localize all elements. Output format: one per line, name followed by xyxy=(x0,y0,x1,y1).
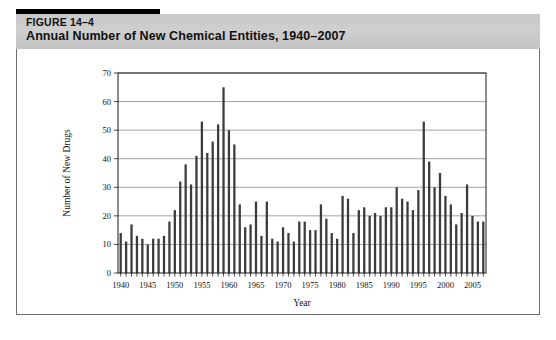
x-tick-2000: 2000 xyxy=(437,280,454,290)
bar-1974 xyxy=(304,222,306,273)
bar-1982 xyxy=(347,199,349,273)
bar-1958 xyxy=(217,124,219,273)
bar-1964 xyxy=(249,224,251,273)
bar-2005 xyxy=(471,216,473,273)
bar-1949 xyxy=(168,222,170,273)
bar-1997 xyxy=(428,162,430,273)
y-axis-title: Number of New Drugs xyxy=(62,129,72,217)
bar-1972 xyxy=(293,242,295,273)
bar-1967 xyxy=(266,202,268,273)
bar-1990 xyxy=(390,207,392,273)
x-tick-1955: 1955 xyxy=(193,280,210,290)
bar-1965 xyxy=(255,202,257,273)
gridlines xyxy=(118,73,486,244)
y-tick-60: 60 xyxy=(103,97,112,107)
figure-title: Annual Number of New Chemical Entities, … xyxy=(26,29,346,43)
y-tick-40: 40 xyxy=(103,154,112,164)
bar-1992 xyxy=(401,199,403,273)
x-tick-1945: 1945 xyxy=(139,280,156,290)
x-tick-2005: 2005 xyxy=(464,280,481,290)
bar-1989 xyxy=(385,207,387,273)
bar-1947 xyxy=(157,239,159,273)
bar-1978 xyxy=(325,219,327,273)
bar-1951 xyxy=(179,182,181,273)
bar-1957 xyxy=(212,142,214,273)
bar-1984 xyxy=(358,210,360,273)
bar-1956 xyxy=(206,153,208,273)
bar-1943 xyxy=(136,236,138,273)
bar-2001 xyxy=(450,204,452,273)
y-tick-50: 50 xyxy=(103,125,112,135)
x-axis-tick-labels: 1940194519501955196019651970197519801985… xyxy=(112,280,481,290)
bar-1994 xyxy=(412,210,414,273)
chart-panel: 010203040506070 194019451950195519601965… xyxy=(16,49,540,315)
x-axis-ticks xyxy=(121,273,484,277)
bar-1995 xyxy=(417,190,419,273)
y-tick-20: 20 xyxy=(103,211,112,221)
bar-1971 xyxy=(287,233,289,273)
bar-chart: 010203040506070 194019451950195519601965… xyxy=(17,49,539,313)
bar-series xyxy=(120,87,485,273)
bar-1963 xyxy=(244,227,246,273)
x-tick-1970: 1970 xyxy=(275,280,292,290)
bar-1945 xyxy=(147,244,149,273)
bar-1975 xyxy=(309,230,311,273)
bar-1952 xyxy=(185,164,187,273)
bar-1968 xyxy=(271,239,273,273)
bar-2007 xyxy=(482,222,484,273)
bar-1976 xyxy=(314,230,316,273)
bar-2003 xyxy=(461,213,463,273)
bar-1970 xyxy=(282,227,284,273)
bar-1985 xyxy=(363,207,365,273)
bar-1973 xyxy=(298,222,300,273)
bar-1969 xyxy=(277,242,279,273)
bar-2000 xyxy=(444,196,446,273)
y-axis-ticks xyxy=(114,73,118,273)
bar-1979 xyxy=(331,233,333,273)
x-tick-1975: 1975 xyxy=(302,280,319,290)
x-tick-1995: 1995 xyxy=(410,280,427,290)
bar-1953 xyxy=(190,184,192,273)
bar-1988 xyxy=(379,216,381,273)
bar-1993 xyxy=(406,202,408,273)
x-tick-1960: 1960 xyxy=(220,280,237,290)
axes xyxy=(118,73,486,273)
bar-2002 xyxy=(455,224,457,273)
bar-1996 xyxy=(423,122,425,273)
bar-1946 xyxy=(152,239,154,273)
bar-1959 xyxy=(222,87,224,273)
bar-1960 xyxy=(228,130,230,273)
x-tick-1980: 1980 xyxy=(329,280,346,290)
x-axis-title: Year xyxy=(293,298,311,308)
y-tick-70: 70 xyxy=(103,68,112,78)
x-tick-1985: 1985 xyxy=(356,280,373,290)
figure-container: FIGURE 14–4 Annual Number of New Chemica… xyxy=(0,0,556,340)
x-tick-1965: 1965 xyxy=(248,280,265,290)
x-tick-1940: 1940 xyxy=(112,280,129,290)
bar-1950 xyxy=(174,210,176,273)
bar-1980 xyxy=(336,239,338,273)
bar-1955 xyxy=(201,122,203,273)
bar-2006 xyxy=(477,222,479,273)
bar-1987 xyxy=(374,213,376,273)
bar-1977 xyxy=(320,204,322,273)
bar-1954 xyxy=(195,156,197,273)
bar-1998 xyxy=(433,187,435,273)
bar-1942 xyxy=(130,224,132,273)
bar-2004 xyxy=(466,184,468,273)
bar-1983 xyxy=(352,233,354,273)
y-tick-10: 10 xyxy=(103,239,112,249)
bar-1962 xyxy=(239,204,241,273)
x-tick-1990: 1990 xyxy=(383,280,400,290)
bar-1999 xyxy=(439,173,441,273)
figure-number-label: FIGURE 14–4 xyxy=(26,16,94,28)
bar-1961 xyxy=(233,144,235,273)
bar-1966 xyxy=(260,236,262,273)
bar-1944 xyxy=(141,239,143,273)
y-axis-tick-labels: 010203040506070 xyxy=(103,68,112,278)
bar-1991 xyxy=(396,187,398,273)
bar-1986 xyxy=(369,216,371,273)
y-tick-0: 0 xyxy=(107,268,111,278)
bar-1940 xyxy=(120,233,122,273)
y-tick-30: 30 xyxy=(103,182,112,192)
